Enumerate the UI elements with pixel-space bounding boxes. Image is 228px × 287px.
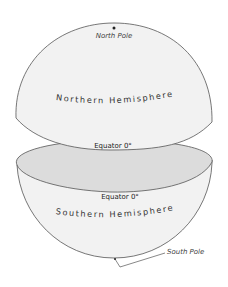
- south-pole-label: South Pole: [167, 248, 204, 256]
- equator-label-lower: Equator 0°: [101, 193, 139, 201]
- north-pole-dot: [113, 27, 116, 30]
- hemisphere-diagram: North Pole Northern Hemisphere Equator 0…: [0, 0, 228, 287]
- equator-label-upper: Equator 0°: [94, 142, 132, 150]
- south-pole-dot: [114, 258, 116, 260]
- north-pole-label: North Pole: [96, 32, 133, 40]
- northern-hemisphere-shape: [16, 23, 212, 150]
